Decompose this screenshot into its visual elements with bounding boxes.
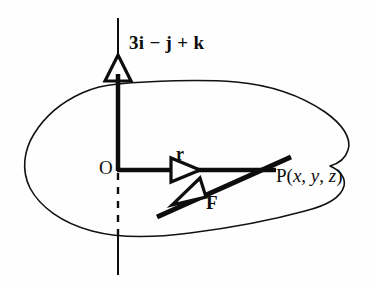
region-boundary-path: [25, 81, 349, 237]
point-label-prefix: P(: [276, 165, 293, 186]
position-vector-label: r: [176, 145, 184, 163]
point-label-sep2: ,: [319, 165, 329, 186]
origin-label: O: [99, 158, 113, 177]
point-label-sep1: ,: [301, 165, 311, 186]
force-vector-arrowhead-icon: [172, 178, 206, 205]
force-vector-label: F: [206, 193, 218, 212]
point-label: P(x, y, z): [276, 166, 343, 185]
moment-of-force-figure: 3i − j + k O r F P(x, y, z): [0, 0, 372, 286]
axis-vector-label: 3i − j + k: [129, 33, 204, 52]
point-label-suffix: ): [336, 165, 342, 186]
